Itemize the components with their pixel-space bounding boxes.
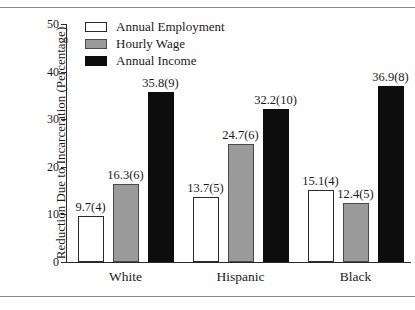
chart-legend: Annual EmploymentHourly WageAnnual Incom… — [85, 20, 225, 67]
bar-value-label: 12.4(5) — [337, 187, 373, 200]
legend-item-income[interactable]: Annual Income — [85, 54, 225, 67]
legend-item-label: Annual Employment — [116, 20, 225, 33]
legend-swatch-employment-icon — [85, 22, 107, 32]
bar-hispanic-employment[interactable] — [193, 197, 219, 262]
bar-hispanic-wage[interactable] — [228, 144, 254, 262]
bar-value-label: 35.8(9) — [142, 76, 178, 89]
y-axis-tick-label: 20 — [47, 161, 59, 173]
y-axis-tick-mark — [61, 167, 66, 168]
y-axis-tick-mark — [61, 72, 66, 73]
x-axis-label-white: White — [109, 270, 142, 284]
legend-item-wage[interactable]: Hourly Wage — [85, 37, 225, 50]
bar-value-label: 24.7(6) — [222, 129, 258, 142]
bar-black-employment[interactable] — [308, 190, 334, 262]
bar-value-label: 13.7(5) — [187, 181, 223, 194]
legend-swatch-wage-icon — [85, 39, 107, 49]
y-axis-title-text: Reduction Due to Incarceration (Percenta… — [54, 27, 67, 259]
bar-white-employment[interactable] — [78, 216, 104, 262]
y-axis-tick-label: 50 — [47, 18, 59, 30]
y-axis-tick-mark — [61, 119, 66, 120]
legend-swatch-income-icon — [85, 56, 107, 66]
figure-container: Reduction Due to Incarceration (Percenta… — [0, 0, 415, 310]
legend-item-label: Hourly Wage — [116, 37, 185, 50]
y-axis-tick-label: 0 — [53, 256, 59, 268]
legend-item-employment[interactable]: Annual Employment — [85, 20, 225, 33]
bar-value-label: 15.1(4) — [302, 175, 338, 188]
bar-black-wage[interactable] — [343, 203, 369, 262]
figure-top-rule — [0, 7, 415, 8]
bar-value-label: 36.9(8) — [372, 71, 408, 84]
bar-value-label: 32.2(10) — [254, 93, 297, 106]
bar-white-wage[interactable] — [113, 184, 139, 262]
y-axis-tick-label: 10 — [47, 208, 59, 220]
y-axis-tick-label: 30 — [47, 113, 59, 125]
x-axis-label-hispanic: Hispanic — [217, 270, 265, 284]
x-axis-line — [66, 262, 411, 263]
bar-hispanic-income[interactable] — [263, 109, 289, 262]
x-axis-label-black: Black — [340, 270, 372, 284]
bar-white-income[interactable] — [148, 92, 174, 262]
bar-black-income[interactable] — [378, 86, 404, 262]
y-axis-tick-mark — [61, 262, 66, 263]
bar-value-label: 9.7(4) — [75, 200, 105, 213]
bar-value-label: 16.3(6) — [107, 169, 143, 182]
legend-item-label: Annual Income — [116, 54, 197, 67]
y-axis-tick-mark — [61, 214, 66, 215]
y-axis-tick-mark — [61, 24, 66, 25]
y-axis-tick-label: 40 — [47, 66, 59, 78]
